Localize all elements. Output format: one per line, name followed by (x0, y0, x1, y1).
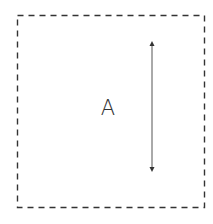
arrow-up-head-icon (150, 41, 155, 46)
arrow-down-head-icon (150, 167, 155, 172)
diagram-canvas: A (0, 0, 213, 224)
region-label: A (98, 96, 118, 120)
